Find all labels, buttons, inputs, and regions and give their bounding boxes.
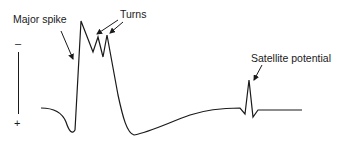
emg-diagram: Major spike Turns Satellite potential – … [0, 0, 345, 142]
turns-label: Turns [120, 9, 146, 20]
turns-arrow-1 [97, 20, 118, 34]
satellite-potential-label: Satellite potential [251, 53, 331, 64]
motor-unit-potential-trace [41, 21, 302, 135]
negative-polarity-sign: – [15, 38, 21, 49]
major-spike-arrow [61, 31, 73, 59]
major-spike-label: Major spike [13, 14, 67, 25]
positive-polarity-sign: + [14, 118, 20, 129]
satellite-arrow [254, 65, 262, 80]
